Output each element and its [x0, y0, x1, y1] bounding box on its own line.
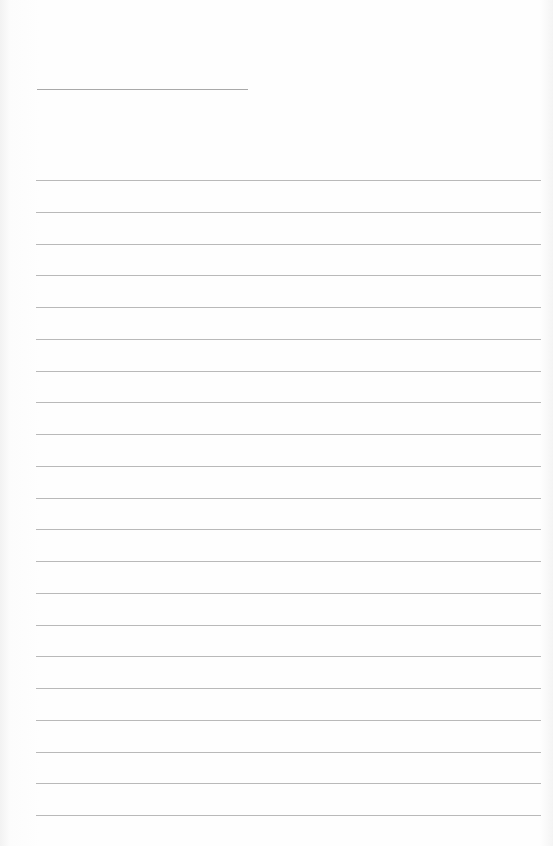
writing-line [36, 783, 541, 784]
writing-line [36, 752, 541, 753]
writing-line [36, 371, 541, 372]
writing-line [36, 529, 541, 530]
writing-line [36, 720, 541, 721]
writing-line [36, 402, 541, 403]
writing-line [36, 180, 541, 181]
writing-line [36, 212, 541, 213]
lined-paper-page [0, 0, 553, 846]
writing-line [36, 275, 541, 276]
writing-line [36, 307, 541, 308]
writing-line [36, 434, 541, 435]
writing-line [36, 625, 541, 626]
writing-line [36, 815, 541, 816]
writing-line [36, 244, 541, 245]
writing-line [36, 561, 541, 562]
title-line [37, 89, 248, 90]
writing-line [36, 498, 541, 499]
writing-line [36, 593, 541, 594]
writing-line [36, 688, 541, 689]
writing-line [36, 339, 541, 340]
writing-line [36, 466, 541, 467]
writing-line [36, 656, 541, 657]
